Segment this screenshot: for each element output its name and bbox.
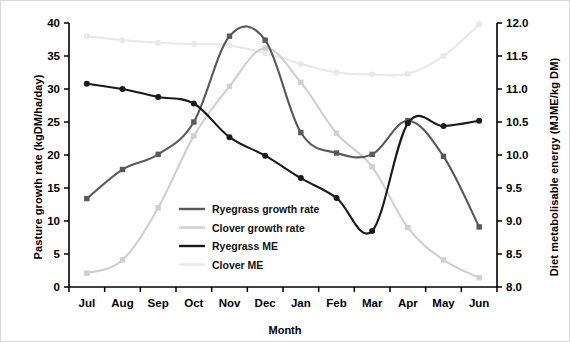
data-point-marker (441, 154, 446, 159)
data-point-marker (369, 152, 374, 157)
data-point-marker (405, 71, 411, 77)
data-point-marker (476, 275, 481, 280)
x-axis-tick-label: Nov (219, 297, 241, 309)
x-axis-tick-label: Jul (79, 297, 96, 309)
series-clover-me (84, 21, 482, 77)
data-point-marker (155, 94, 161, 100)
x-axis-tick-label: Mar (362, 297, 383, 309)
y-axis-right-tick-label: 10.0 (506, 149, 528, 161)
data-point-marker (120, 37, 126, 43)
series-clover-growth-rate (84, 45, 482, 280)
legend-label-3: Ryegrass ME (212, 240, 278, 252)
chart-figure: Pasture growth rate (kgDM/ha/day) Diet m… (0, 0, 570, 342)
data-point-marker (334, 131, 339, 136)
y-axis-right-tick-label: 12.0 (506, 17, 528, 29)
x-axis-tick-label: Jan (291, 297, 311, 309)
data-point-marker (298, 61, 304, 67)
y-axis-left-tick-label: 5 (54, 248, 61, 260)
y-axis-right-tick-label: 9.0 (506, 215, 522, 227)
y-axis-left-tick-label: 0 (54, 281, 60, 293)
x-axis-tick-label: Dec (255, 297, 277, 309)
y-axis-left-tick-label: 15 (47, 182, 60, 194)
data-point-marker (476, 21, 482, 27)
data-point-marker (262, 45, 267, 50)
chart-legend: Ryegrass growth rateClover growth rateRy… (179, 203, 320, 271)
x-axis-tick-label: May (432, 297, 455, 309)
data-point-marker (405, 225, 410, 230)
data-point-marker (191, 133, 196, 138)
data-point-marker (298, 80, 303, 85)
data-point-marker (476, 118, 482, 124)
y-axis-left-tick-label: 25 (47, 116, 60, 128)
data-point-marker (84, 33, 90, 39)
data-point-marker (369, 164, 374, 169)
data-point-marker (262, 37, 267, 42)
y-axis-left-tick-label: 30 (47, 83, 60, 95)
data-point-marker (191, 101, 197, 107)
y-axis-left-tick-label: 40 (47, 17, 60, 29)
data-point-marker (227, 42, 233, 48)
y-axis-right-tick-label: 9.5 (506, 182, 523, 194)
y-axis-right-tick-label: 11.5 (506, 50, 528, 62)
data-point-marker (441, 123, 447, 129)
y-axis-right-tick-label: 11.0 (506, 83, 528, 95)
data-point-marker (441, 257, 446, 262)
data-point-marker (262, 153, 268, 159)
data-point-marker (334, 150, 339, 155)
data-point-marker (120, 167, 125, 172)
series-line (87, 24, 479, 75)
data-point-marker (441, 53, 447, 59)
data-point-marker (155, 40, 161, 46)
data-point-marker (191, 119, 196, 124)
y-axis-left-tick-label: 20 (47, 149, 60, 161)
data-point-marker (84, 81, 90, 87)
data-point-marker (369, 228, 375, 234)
legend-label-4: Clover ME (212, 259, 263, 271)
y-axis-right-tick-label: 10.5 (506, 116, 529, 128)
data-point-marker (84, 196, 89, 201)
data-point-marker (298, 175, 304, 181)
x-axis-tick-label: Jun (469, 297, 489, 309)
x-axis-tick-label: Oct (184, 297, 203, 309)
y-axis-left-tick-label: 10 (47, 215, 60, 227)
data-point-marker (155, 152, 160, 157)
data-point-marker (334, 70, 340, 76)
data-point-marker (84, 270, 89, 275)
data-point-marker (227, 84, 232, 89)
series-line (87, 26, 479, 227)
data-point-marker (262, 50, 268, 56)
data-point-marker (227, 34, 232, 39)
y-axis-left-tick-label: 35 (47, 50, 60, 62)
chart-plot-area: 05101520253035408.08.59.09.510.010.511.0… (1, 1, 570, 342)
x-axis-tick-label: Feb (326, 297, 346, 309)
legend-label-1: Ryegrass growth rate (212, 203, 320, 215)
series-ryegrass-growth-rate (84, 26, 482, 229)
y-axis-right-tick-label: 8.0 (506, 281, 522, 293)
y-axis-right-tick-label: 8.5 (506, 248, 523, 260)
data-point-marker (405, 120, 411, 126)
data-point-marker (334, 195, 340, 201)
data-point-marker (369, 71, 375, 77)
data-point-marker (191, 41, 197, 47)
data-point-marker (298, 130, 303, 135)
data-point-marker (227, 134, 233, 140)
data-point-marker (120, 257, 125, 262)
x-axis-tick-label: Sep (148, 297, 169, 309)
legend-label-2: Clover growth rate (212, 222, 305, 234)
data-point-marker (476, 224, 481, 229)
data-point-marker (155, 205, 160, 210)
x-axis-tick-label: Apr (398, 297, 418, 309)
x-axis-tick-label: Aug (111, 297, 133, 309)
data-point-marker (120, 86, 126, 92)
